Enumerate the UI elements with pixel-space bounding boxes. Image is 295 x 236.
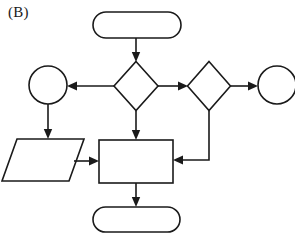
edge-start-to-center bbox=[132, 38, 140, 62]
edge-left-circle-to-parallelogram bbox=[44, 104, 52, 139]
input-parallelogram-shape bbox=[2, 139, 84, 181]
process-rectangle-shape bbox=[99, 140, 173, 183]
flowchart-panel: (B) bbox=[0, 0, 295, 236]
left-connector-circle-shape bbox=[29, 66, 67, 104]
edge-center-to-right-decision bbox=[158, 82, 188, 91]
right-connector-circle-shape bbox=[258, 66, 295, 104]
edge-right-decision-to-right-circle bbox=[231, 82, 259, 91]
edge-center-to-process bbox=[132, 111, 140, 141]
edge-center-to-left-circle bbox=[67, 82, 114, 91]
flowchart-canvas bbox=[0, 0, 295, 236]
end-terminator-shape bbox=[93, 207, 180, 232]
edge-right-decision-to-process bbox=[173, 111, 209, 165]
edge-process-to-end bbox=[132, 183, 140, 207]
center-decision-shape bbox=[114, 62, 158, 111]
start-terminator-shape bbox=[93, 12, 181, 38]
right-decision-shape bbox=[188, 62, 231, 111]
